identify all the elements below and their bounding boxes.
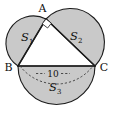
vertex-label-b: B xyxy=(4,61,12,74)
dimension-label-10: 10 xyxy=(47,69,59,79)
vertex-label-a: A xyxy=(38,2,48,15)
geometry-figure: A B C S1 S2 S3 10 xyxy=(0,0,114,116)
geometry-canvas: A B C S1 S2 S3 10 xyxy=(0,0,114,116)
vertex-label-c: C xyxy=(100,61,108,74)
